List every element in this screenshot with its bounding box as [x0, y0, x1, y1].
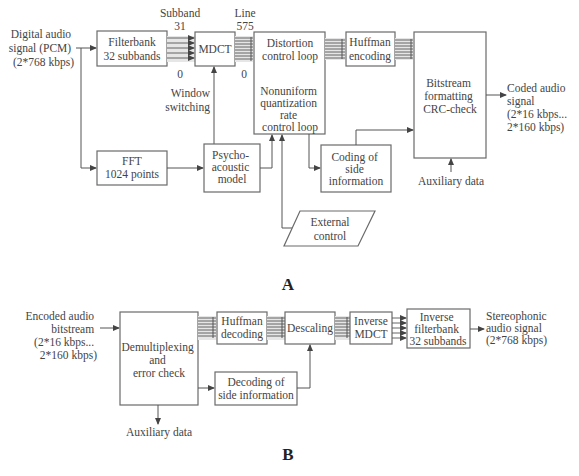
encoder-input-label: Digital audio signal (PCM) (2*768 kbps) [9, 28, 74, 69]
svg-text:Decoding ofside information: Decoding ofside information [218, 376, 294, 401]
svg-text:Windowswitching: Windowswitching [165, 87, 210, 114]
svg-text:MDCT: MDCT [198, 43, 231, 55]
svg-text:Huffmandecoding: Huffmandecoding [221, 315, 263, 341]
svg-text:Bitstream formatting: Bitstream formatting CRC-check [423, 77, 477, 115]
svg-text:Auxiliary data: Auxiliary data [418, 175, 484, 188]
figure-label-a: A [282, 275, 295, 294]
decoder-input-label: Encoded audio bitstream (2*16 kbps... 2*… [25, 310, 97, 362]
svg-text:InverseMDCT: InverseMDCT [354, 315, 388, 340]
svg-text:Huffmanencoding: Huffmanencoding [349, 36, 391, 63]
mp3-codec-diagram: Digital audio signal (PCM) (2*768 kbps) … [0, 0, 579, 476]
svg-text:0: 0 [241, 68, 247, 80]
encoder-output-label: Coded audio signal (2*16 kbps... 2*160 k… [507, 82, 570, 134]
figure-label-b: B [282, 445, 293, 464]
svg-text:Distortioncontrol loop: Distortioncontrol loop [262, 37, 318, 63]
encoder-diagram: Digital audio signal (PCM) (2*768 kbps) … [9, 7, 570, 294]
svg-text:Subband31: Subband31 [160, 7, 201, 32]
decoder-diagram: Encoded audio bitstream (2*16 kbps... 2*… [25, 309, 549, 464]
svg-text:0: 0 [177, 68, 183, 80]
decoder-output-label: Stereophonic audio signal (2*768 kbps) [486, 310, 550, 347]
svg-text:Line575: Line575 [234, 7, 255, 32]
svg-text:Psycho- acoustic m: Psycho- acoustic model [212, 149, 253, 185]
svg-text:Descaling: Descaling [287, 322, 333, 335]
svg-text:Auxiliary data: Auxiliary data [126, 426, 192, 439]
